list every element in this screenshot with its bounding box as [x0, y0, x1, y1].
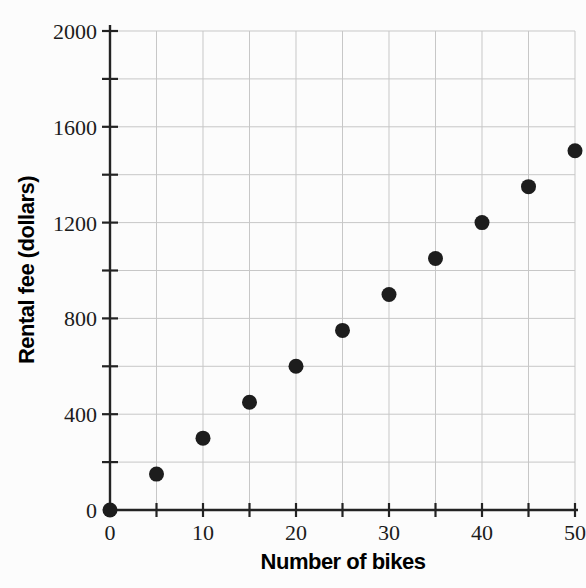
x-tick-label: 30 [378, 520, 400, 545]
data-point [521, 179, 536, 194]
y-tick-label: 2000 [53, 19, 97, 44]
x-tick-label: 10 [192, 520, 214, 545]
x-tick-label: 0 [105, 520, 116, 545]
data-point [196, 431, 211, 446]
data-point [475, 215, 490, 230]
scatter-chart: 040080012001600200001020304050 Rental fe… [0, 0, 586, 588]
data-point [382, 287, 397, 302]
y-tick-label: 1200 [53, 211, 97, 236]
x-axis-title: Number of bikes [110, 548, 576, 576]
y-axis-title: Rental fee (dollars) [13, 30, 41, 510]
x-tick-label: 40 [471, 520, 493, 545]
data-point [428, 251, 443, 266]
y-tick-label: 400 [64, 402, 97, 427]
y-tick-label: 800 [64, 306, 97, 331]
data-point [103, 503, 118, 518]
data-point [289, 359, 304, 374]
data-point [149, 467, 164, 482]
plot-area: 040080012001600200001020304050 [0, 0, 586, 588]
data-point [568, 143, 583, 158]
y-tick-label: 0 [86, 498, 97, 523]
x-tick-label: 50 [564, 520, 586, 545]
y-tick-label: 1600 [53, 115, 97, 140]
data-point [335, 323, 350, 338]
x-tick-label: 20 [285, 520, 307, 545]
data-point [242, 395, 257, 410]
